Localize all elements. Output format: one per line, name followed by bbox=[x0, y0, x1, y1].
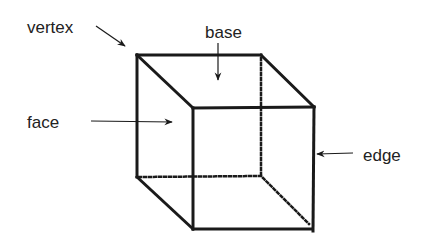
edge-arrow-icon bbox=[317, 153, 353, 154]
vertex-arrow-icon bbox=[96, 26, 125, 46]
edge-label: edge bbox=[363, 146, 401, 165]
cube bbox=[137, 55, 314, 231]
cube-diagram: vertex base face edge bbox=[0, 0, 445, 248]
visible-edges bbox=[137, 55, 314, 231]
vertex-label: vertex bbox=[27, 18, 74, 37]
face-arrow-icon bbox=[91, 121, 172, 122]
face-label: face bbox=[27, 113, 59, 132]
base-label: base bbox=[205, 23, 242, 42]
